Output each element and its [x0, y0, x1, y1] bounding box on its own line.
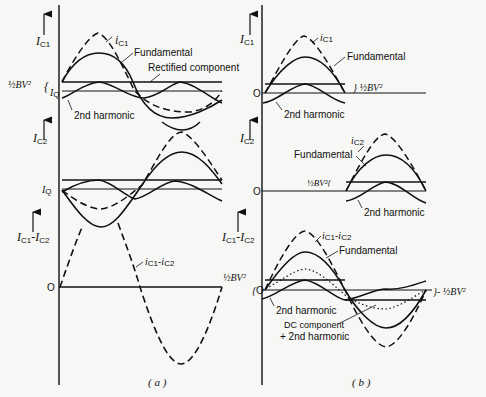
half-bv2-label: ½BV²{: [307, 178, 331, 188]
second-harmonic-label: 2nd harmonic: [284, 109, 345, 120]
panel-a: IC1 iC1 Fundamental Rectified component …: [8, 5, 239, 389]
zero-label: O: [47, 282, 55, 293]
minus-half-bv2-label: }- ½BV²: [433, 286, 467, 297]
ic1-minus-ic2-label: iC1-iC2: [145, 256, 175, 268]
second-harmonic-label: 2nd harmonic: [364, 207, 425, 218]
panel-a-top-plot: IC1 iC1 Fundamental Rectified component …: [8, 14, 239, 121]
panel-a-middle-plot: IC2 IQ: [32, 120, 222, 227]
second-harmonic-curve: [346, 182, 426, 203]
panel-b-middle-plot: IC2 O iC2 Fundamental ½BV²{ 2nd harmonic: [239, 120, 426, 218]
half-bv2-label: } ½BV²: [353, 82, 383, 93]
caption-b: ( b ): [352, 376, 371, 389]
panel-b-top-plot: IC1 O iC1 Fundamental } ½BV² 2nd harmoni…: [239, 14, 426, 120]
half-bv2-left-label: ½BV²: [223, 272, 247, 283]
zero-label: O: [253, 88, 261, 99]
panel-b: IC1 O iC1 Fundamental } ½BV² 2nd harmoni…: [221, 5, 467, 389]
axis-label-ic2: IC2: [32, 131, 48, 146]
ic1-label: iC1: [320, 32, 334, 44]
ic2-label: iC2: [351, 135, 365, 147]
fundamental-curve: [346, 155, 426, 191]
caption-a: ( a ): [148, 376, 167, 389]
zero-label: O: [253, 186, 261, 197]
plus-second-harmonic-label: + 2nd harmonic: [280, 331, 349, 342]
rectified-component-label: Rectified component: [148, 62, 239, 73]
fundamental-label: Fundamental: [347, 51, 405, 62]
dc-component-label: DC component: [284, 320, 345, 330]
panel-a-bottom-plot: IC1-IC2 O iC1-iC2: [16, 212, 222, 364]
iq-label: IQ: [41, 184, 52, 196]
iq-label: IQ: [49, 87, 60, 99]
fundamental-label: Fundamental: [134, 47, 192, 58]
axis-label-ic1: IC1: [35, 34, 51, 49]
fundamental-curve: [265, 57, 345, 93]
axis-label-ic2: IC2: [239, 131, 255, 146]
second-harmonic-curve: [62, 180, 222, 201]
fundamental-label: Fundamental: [339, 245, 397, 256]
ic1-minus-ic2-label: iC1-iC2: [322, 230, 352, 242]
fundamental-label: Fundamental: [294, 149, 352, 160]
half-bv2-label: ½BV²: [8, 79, 32, 90]
ic1-label: iC1: [115, 33, 129, 48]
panel-b-bottom-plot: IC1-IC2 ½BV² { O iC1-iC2 Fundamental }- …: [221, 212, 467, 347]
ic1-minus-ic2-curve: [60, 223, 222, 364]
axis-label-ic1: IC1: [239, 32, 255, 47]
axis-label-ic1-minus-ic2: IC1-IC2: [16, 230, 50, 245]
second-harmonic-label: 2nd harmonic: [276, 305, 337, 316]
top-curve-continuation: [162, 122, 200, 130]
push-pull-waveform-diagram: IC1 iC1 Fundamental Rectified component …: [0, 0, 486, 397]
second-harmonic-label: 2nd harmonic: [74, 110, 135, 121]
brace: {: [44, 80, 49, 94]
axis-label-ic1-minus-ic2: IC1-IC2: [221, 230, 255, 245]
